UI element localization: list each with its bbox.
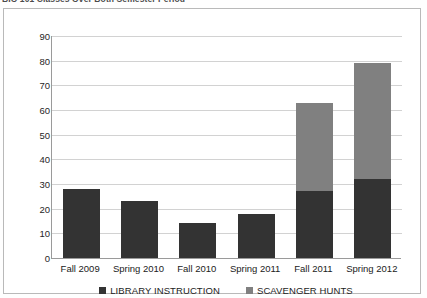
bar-segment-library-instruction[interactable]	[238, 214, 275, 258]
legend-item[interactable]: LIBRARY INSTRUCTION	[99, 285, 220, 296]
bar-slot	[227, 36, 285, 258]
bar-group	[52, 36, 402, 258]
x-axis-tick-label: Fall 2011	[284, 263, 342, 274]
stacked-bar[interactable]	[179, 223, 216, 258]
bar-slot	[285, 36, 343, 258]
bar-segment-scavenger-hunts[interactable]	[296, 103, 333, 192]
y-axis-tick-label: 90	[18, 31, 50, 42]
y-axis-tick-label: 30	[18, 179, 50, 190]
y-axis-tick-label: 20	[18, 203, 50, 214]
plot-area	[51, 36, 401, 259]
x-axis-tick-labels: Fall 2009Spring 2010Fall 2010Spring 2011…	[51, 263, 401, 274]
y-axis-tick-label: 70	[18, 80, 50, 91]
y-axis-tick-label: 50	[18, 129, 50, 140]
y-axis-tick-label: 40	[18, 154, 50, 165]
bar-segment-library-instruction[interactable]	[121, 201, 158, 258]
x-axis-tick-label: Fall 2010	[168, 263, 226, 274]
legend-swatch-icon	[99, 287, 106, 294]
stacked-bar[interactable]	[121, 201, 158, 258]
y-axis-tick-label: 10	[18, 228, 50, 239]
bar-segment-library-instruction[interactable]	[179, 223, 216, 258]
bar-slot	[344, 36, 402, 258]
chart-page: BIO 101 Classes Over Both Semester Perio…	[0, 0, 427, 298]
x-axis-tick-label: Spring 2012	[343, 263, 401, 274]
legend-label: LIBRARY INSTRUCTION	[110, 285, 220, 296]
stacked-bar[interactable]	[238, 214, 275, 258]
x-axis-tick-label: Spring 2011	[226, 263, 284, 274]
y-axis-tick-labels: 9080706050403020100	[18, 29, 50, 269]
bar-slot	[110, 36, 168, 258]
bar-slot	[169, 36, 227, 258]
legend-item[interactable]: SCAVENGER HUNTS	[246, 285, 353, 296]
y-axis-tick-label: 80	[18, 55, 50, 66]
stacked-bar[interactable]	[354, 63, 391, 258]
x-axis-tick-label: Fall 2009	[51, 263, 109, 274]
bar-segment-library-instruction[interactable]	[63, 189, 100, 258]
y-axis-tick-label: 60	[18, 105, 50, 116]
stacked-bar[interactable]	[63, 189, 100, 258]
y-axis-tick-label: 0	[18, 253, 50, 264]
bar-slot	[52, 36, 110, 258]
stacked-bar[interactable]	[296, 103, 333, 258]
legend-swatch-icon	[246, 287, 253, 294]
bar-segment-library-instruction[interactable]	[354, 179, 391, 258]
bar-segment-scavenger-hunts[interactable]	[354, 63, 391, 179]
chart-frame: 9080706050403020100 Fall 2009Spring 2010…	[3, 8, 421, 294]
chart-legend: LIBRARY INSTRUCTIONSCAVENGER HUNTS	[51, 285, 401, 296]
chart-caption: BIO 101 Classes Over Both Semester Perio…	[2, 0, 185, 4]
bar-segment-library-instruction[interactable]	[296, 191, 333, 258]
legend-label: SCAVENGER HUNTS	[257, 285, 353, 296]
x-axis-tick-label: Spring 2010	[109, 263, 167, 274]
